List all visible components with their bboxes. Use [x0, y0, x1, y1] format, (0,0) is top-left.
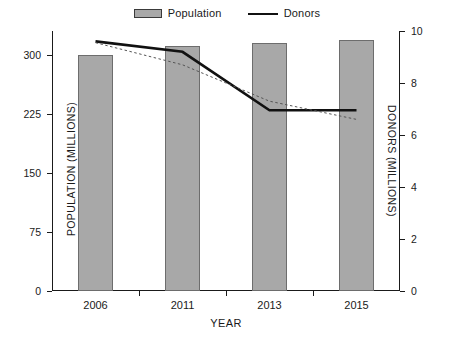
- y-left-tick-label-75: 75: [29, 227, 41, 238]
- y-right-tick: [400, 135, 405, 136]
- y-left-tick-label-225: 225: [23, 108, 41, 119]
- legend-item-population: Population: [134, 8, 222, 19]
- x-axis-tick: [139, 291, 140, 296]
- y-left-tick-label-0: 0: [35, 286, 41, 297]
- x-axis-tick-label-2011: 2011: [171, 300, 195, 311]
- y-left-tick: [47, 291, 52, 292]
- x-axis-tick-label-2006: 2006: [83, 300, 107, 311]
- y-right-tick-label-8: 8: [411, 78, 417, 89]
- y-left-tick-label-300: 300: [23, 49, 41, 60]
- y-right-tick-label-6: 6: [411, 130, 417, 141]
- y-axis-right-title: DONORS (MILLIONS): [386, 105, 398, 217]
- chart-legend: Population Donors: [0, 8, 454, 19]
- y-right-tick-label-0: 0: [411, 286, 417, 297]
- y-right-tick: [400, 31, 405, 32]
- donors-line: [96, 41, 357, 110]
- line-series-layer: [52, 31, 400, 291]
- y-right-tick: [400, 83, 405, 84]
- x-axis-tick-label-2015: 2015: [344, 300, 368, 311]
- chart-figure: Population Donors 075150225300 0246810 2…: [0, 0, 454, 337]
- y-axis-left-title: POPULATION (MILLIONS): [65, 101, 77, 235]
- legend-label-population: Population: [168, 8, 222, 19]
- line-swatch-icon: [248, 13, 278, 15]
- y-left-tick-label-150: 150: [23, 168, 41, 179]
- x-axis-title: YEAR: [52, 317, 400, 329]
- y-right-tick: [400, 187, 405, 188]
- y-right-tick: [400, 291, 405, 292]
- x-axis-tick-label-2013: 2013: [257, 300, 281, 311]
- legend-label-donors: Donors: [284, 8, 321, 19]
- y-right-tick: [400, 239, 405, 240]
- x-axis-tick: [226, 291, 227, 296]
- legend-item-donors: Donors: [248, 8, 321, 19]
- y-right-tick-label-2: 2: [411, 234, 417, 245]
- bar-swatch-icon: [134, 9, 162, 18]
- y-right-tick-label-10: 10: [411, 26, 423, 37]
- plot-area: 075150225300 0246810 2006201120132015: [52, 31, 400, 291]
- x-axis-tick: [313, 291, 314, 296]
- y-right-tick-label-4: 4: [411, 182, 417, 193]
